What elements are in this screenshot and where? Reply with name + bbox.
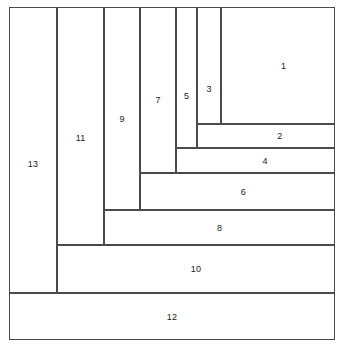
rect-7 (140, 7, 176, 173)
rect-label-1: 1 (281, 61, 286, 70)
rect-label-12: 12 (167, 312, 177, 321)
rect-4 (176, 148, 335, 173)
rect-13 (9, 7, 57, 293)
rect-label-11: 11 (76, 133, 86, 142)
rect-6 (140, 173, 335, 210)
rectangle-dissection-layer: 12345678910111213 (0, 0, 339, 347)
rect-3 (197, 7, 221, 124)
rect-label-3: 3 (206, 84, 211, 93)
rect-1 (221, 7, 335, 124)
diagram-canvas: 12345678910111213 (0, 0, 339, 347)
rect-label-13: 13 (28, 160, 38, 169)
rect-label-2: 2 (277, 132, 282, 141)
rect-label-9: 9 (119, 114, 124, 123)
rect-label-7: 7 (155, 95, 160, 104)
rect-label-5: 5 (184, 91, 189, 100)
rect-label-8: 8 (217, 223, 222, 232)
rect-9 (104, 7, 140, 210)
rect-11 (57, 7, 104, 245)
rect-label-10: 10 (191, 265, 201, 274)
rect-5 (176, 7, 197, 148)
rect-label-6: 6 (241, 187, 246, 196)
rect-label-4: 4 (262, 156, 267, 165)
rect-2 (197, 124, 335, 148)
